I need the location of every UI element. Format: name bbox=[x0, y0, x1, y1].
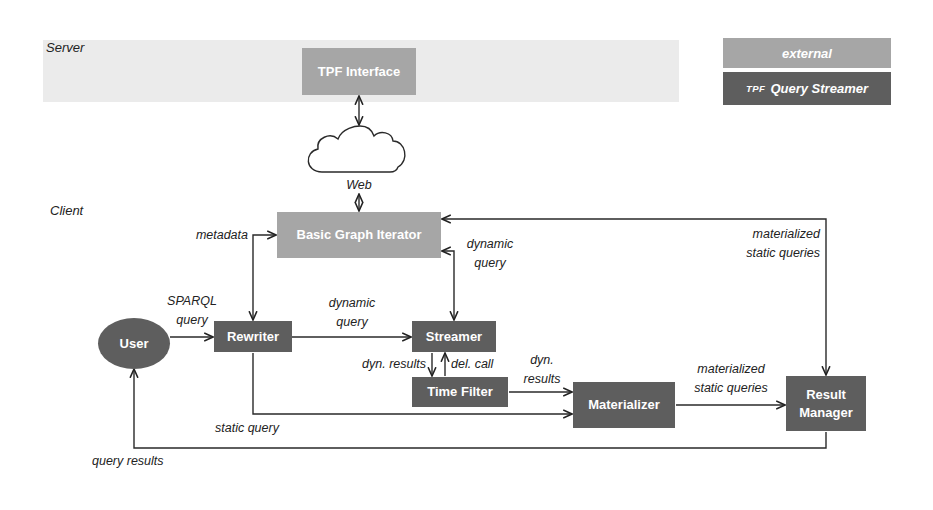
rewriter-label: Rewriter bbox=[227, 328, 279, 346]
materialized-top-label: materialized static queries bbox=[720, 225, 820, 263]
dynamic-query-right-line2: query bbox=[458, 254, 522, 273]
dyn-results-materializer-line2: results bbox=[514, 370, 570, 389]
materializer-label: Materializer bbox=[588, 396, 660, 414]
streamer-label: Streamer bbox=[426, 328, 482, 346]
streamer-node: Streamer bbox=[412, 321, 496, 352]
sparql-query-line1: SPARQL bbox=[158, 292, 226, 311]
user-label: User bbox=[120, 335, 149, 353]
materialized-top-line1: materialized bbox=[720, 225, 820, 244]
time-filter-label: Time Filter bbox=[427, 383, 493, 401]
dynamic-query-mid-line2: query bbox=[320, 313, 384, 332]
dyn-results-materializer-label: dyn. results bbox=[514, 351, 570, 389]
basic-graph-iterator-label: Basic Graph Iterator bbox=[297, 226, 422, 244]
dyn-results-materializer-line1: dyn. bbox=[514, 351, 570, 370]
sparql-query-line2: query bbox=[158, 311, 226, 330]
materialized-top-line2: static queries bbox=[720, 244, 820, 263]
materialized-bottom-line1: materialized bbox=[681, 360, 781, 379]
metadata-label: metadata bbox=[175, 226, 248, 245]
dynamic-query-mid-line1: dynamic bbox=[320, 294, 384, 313]
dynamic-query-mid-label: dynamic query bbox=[320, 294, 384, 332]
tpf-interface-node: TPF Interface bbox=[302, 48, 416, 95]
result-manager-label-line2: Manager bbox=[799, 404, 852, 422]
sparql-query-label: SPARQL query bbox=[158, 292, 226, 330]
result-manager-node: Result Manager bbox=[786, 376, 866, 431]
static-query-label: static query bbox=[215, 419, 279, 438]
basic-graph-iterator-node: Basic Graph Iterator bbox=[277, 212, 441, 258]
materialized-bottom-label: materialized static queries bbox=[681, 360, 781, 398]
del-call-label: del. call bbox=[451, 355, 493, 374]
dynamic-query-right-line1: dynamic bbox=[458, 235, 522, 254]
dyn-results-label: dyn. results bbox=[344, 355, 426, 374]
dynamic-query-right-label: dynamic query bbox=[458, 235, 522, 273]
time-filter-node: Time Filter bbox=[412, 377, 508, 407]
result-manager-label-line1: Result bbox=[806, 386, 846, 404]
tpf-interface-label: TPF Interface bbox=[318, 63, 400, 81]
arrow-dynamic-query-bgi bbox=[442, 251, 454, 320]
query-results-label: query results bbox=[92, 452, 164, 471]
web-label: Web bbox=[340, 176, 378, 195]
materialized-bottom-line2: static queries bbox=[681, 379, 781, 398]
arrow-metadata bbox=[253, 235, 276, 320]
cloud-icon bbox=[308, 126, 405, 172]
materializer-node: Materializer bbox=[573, 382, 675, 428]
